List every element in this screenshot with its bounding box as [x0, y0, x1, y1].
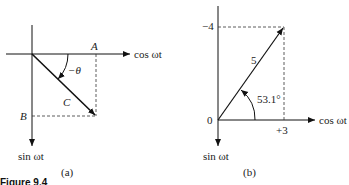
- label-theta: −θ: [68, 64, 81, 76]
- angle-arc-a: [58, 54, 68, 79]
- label-C: C: [63, 96, 71, 108]
- sin-label-b: sin ωt: [203, 150, 229, 162]
- angle-arc-b: [241, 90, 255, 120]
- sin-label-a: sin ωt: [18, 150, 44, 162]
- tick-pos3: +3: [276, 124, 288, 136]
- panel-a: A B C −θ cos ωt sin ωt (a): [6, 25, 162, 179]
- caption-b: (b): [243, 166, 256, 179]
- panel-b: −4 0 +3 5 53.1° cos ωt sin ωt (b): [202, 6, 347, 179]
- caption-a: (a): [61, 166, 74, 179]
- origin-label: 0: [207, 114, 213, 126]
- cos-label-a: cos ωt: [134, 48, 162, 60]
- magnitude-label: 5: [251, 54, 257, 66]
- label-A: A: [90, 40, 98, 52]
- label-B: B: [20, 110, 27, 122]
- cos-label-b: cos ωt: [319, 114, 347, 126]
- figure-caption: Figure 9.4: [0, 177, 48, 185]
- phasor-diagram: A B C −θ cos ωt sin ωt (a) −4 0 +3 5 53.…: [0, 0, 349, 185]
- angle-label-b: 53.1°: [257, 93, 281, 105]
- tick-neg4: −4: [202, 20, 214, 32]
- vector-5: [218, 28, 283, 120]
